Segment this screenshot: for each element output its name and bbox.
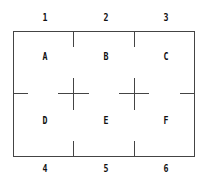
cell-label-f: F <box>159 115 174 127</box>
cell-label-a: A <box>38 51 53 63</box>
column-label-6: 6 <box>159 163 174 175</box>
cell-label-e: E <box>99 115 114 127</box>
column-label-3: 3 <box>159 12 174 24</box>
cell-label-c: C <box>159 51 174 63</box>
column-label-4: 4 <box>38 163 53 175</box>
column-label-2: 2 <box>99 12 114 24</box>
column-label-1: 1 <box>38 12 53 24</box>
grid-diagram <box>0 0 202 181</box>
cell-label-d: D <box>38 115 53 127</box>
cell-label-b: B <box>99 51 114 63</box>
crosshair-1 <box>58 78 89 110</box>
column-label-5: 5 <box>99 163 114 175</box>
crosshair-2 <box>119 78 149 110</box>
